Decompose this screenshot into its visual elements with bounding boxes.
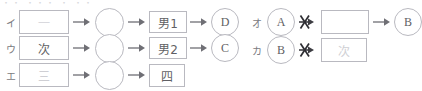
- arrow-icon: [127, 68, 147, 82]
- arrow-icon: [127, 15, 147, 29]
- row-label-u: ウ: [4, 41, 17, 56]
- crossed-arrow-icon: [297, 13, 319, 31]
- circle-blank-2: [95, 34, 124, 63]
- row-label-e: エ: [4, 68, 17, 83]
- arrow-icon: [189, 41, 209, 55]
- box-empty: [321, 10, 369, 34]
- arrow-icon: [127, 41, 147, 55]
- box-otoko2: 男2: [149, 37, 187, 59]
- row-label-i: イ: [4, 15, 17, 30]
- circle-c: C: [211, 34, 239, 62]
- row-label-ka: カ: [250, 43, 263, 58]
- circle-d: D: [211, 8, 239, 36]
- flow-row-ka: カ B 次: [250, 37, 367, 63]
- box-tsugi-2: 次: [321, 38, 367, 62]
- top-cutoff-text: ・・ ・・・ ・ ・・: [2, 0, 202, 5]
- arrow-icon: [72, 15, 92, 29]
- circle-a: A: [267, 8, 295, 36]
- flow-row-i: イ 一 男1 D: [4, 9, 239, 35]
- flow-row-o: オ A B: [250, 9, 422, 35]
- arrow-icon: [72, 68, 92, 82]
- row-label-o: オ: [250, 15, 263, 30]
- circle-b-2: B: [267, 36, 295, 64]
- circle-blank-1: [95, 8, 124, 37]
- arrow-icon: [372, 15, 392, 29]
- box-otoko1: 男1: [149, 11, 187, 33]
- box-san: 三: [19, 63, 69, 87]
- box-tsugi-1: 次: [19, 36, 69, 60]
- circle-blank-3: [95, 61, 124, 90]
- flow-row-u: ウ 次 男2 C: [4, 35, 239, 61]
- circle-b-1: B: [394, 8, 422, 36]
- flow-row-e: エ 三 四: [4, 62, 185, 88]
- box-ichi: 一: [19, 10, 69, 34]
- arrow-icon: [189, 15, 209, 29]
- box-shi: 四: [149, 64, 185, 87]
- crossed-arrow-icon: [297, 41, 319, 59]
- arrow-icon: [72, 41, 92, 55]
